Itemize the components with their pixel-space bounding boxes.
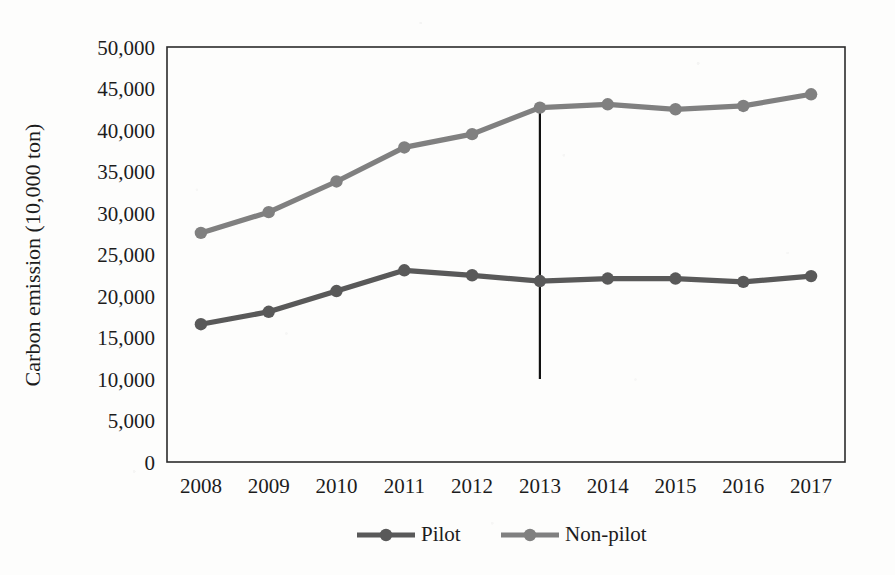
x-axis-tick-label: 2008 bbox=[180, 474, 222, 498]
data-point-marker bbox=[602, 272, 614, 284]
y-axis-tick-label: 30,000 bbox=[97, 202, 155, 226]
chart-legend: PilotNon-pilot bbox=[357, 522, 647, 546]
carbon-emission-line-chart: Carbon emission (10,000 ton) 05,00010,00… bbox=[0, 0, 895, 575]
y-axis-tick-label: 50,000 bbox=[97, 36, 155, 60]
y-axis-tick-label: 40,000 bbox=[97, 119, 155, 143]
data-point-marker bbox=[398, 141, 410, 153]
y-axis-tick-label: 20,000 bbox=[97, 285, 155, 309]
data-point-marker bbox=[263, 306, 275, 318]
data-point-marker bbox=[263, 206, 275, 218]
data-point-marker bbox=[805, 88, 817, 100]
legend-marker-icon bbox=[524, 529, 536, 541]
y-axis-title: Carbon emission (10,000 ton) bbox=[20, 124, 45, 387]
data-point-marker bbox=[466, 128, 478, 140]
data-point-marker bbox=[330, 175, 342, 187]
x-axis-tick-labels: 2008200920102011201220132014201520162017 bbox=[180, 474, 832, 498]
x-axis-tick-label: 2015 bbox=[655, 474, 697, 498]
data-point-marker bbox=[737, 276, 749, 288]
y-axis-tick-label: 0 bbox=[145, 451, 156, 475]
x-axis-tick-label: 2016 bbox=[722, 474, 764, 498]
y-axis-tick-label: 15,000 bbox=[97, 326, 155, 350]
data-point-marker bbox=[398, 264, 410, 276]
data-point-marker bbox=[669, 103, 681, 115]
data-point-marker bbox=[330, 285, 342, 297]
data-point-marker bbox=[195, 227, 207, 239]
x-axis-tick-label: 2012 bbox=[451, 474, 493, 498]
data-point-marker bbox=[737, 100, 749, 112]
series-line bbox=[201, 94, 811, 233]
legend-label: Pilot bbox=[421, 522, 461, 546]
series-line bbox=[201, 270, 811, 324]
legend-item-pilot[interactable]: Pilot bbox=[357, 522, 461, 546]
x-axis-tick-label: 2017 bbox=[790, 474, 832, 498]
x-axis-tick-label: 2014 bbox=[587, 474, 630, 498]
y-axis-tick-label: 35,000 bbox=[97, 160, 155, 184]
data-point-marker bbox=[602, 98, 614, 110]
legend-marker-icon bbox=[380, 529, 392, 541]
y-axis-tick-labels: 05,00010,00015,00020,00025,00030,00035,0… bbox=[97, 36, 155, 475]
figure-container: Carbon emission (10,000 ton) 05,00010,00… bbox=[0, 0, 895, 575]
legend-item-non-pilot[interactable]: Non-pilot bbox=[501, 522, 647, 546]
data-series-layer bbox=[195, 88, 818, 330]
data-point-marker bbox=[669, 272, 681, 284]
x-axis-tick-label: 2013 bbox=[519, 474, 561, 498]
x-axis-tick-label: 2010 bbox=[316, 474, 358, 498]
y-axis-tick-label: 10,000 bbox=[97, 368, 155, 392]
data-point-marker bbox=[534, 275, 546, 287]
data-point-marker bbox=[195, 318, 207, 330]
data-point-marker bbox=[534, 101, 546, 113]
data-point-marker bbox=[466, 269, 478, 281]
y-axis-tick-label: 5,000 bbox=[108, 409, 155, 433]
data-point-marker bbox=[805, 270, 817, 282]
series-non-pilot bbox=[195, 88, 818, 239]
x-axis-tick-label: 2011 bbox=[384, 474, 425, 498]
legend-label: Non-pilot bbox=[565, 522, 647, 546]
series-pilot bbox=[195, 264, 818, 330]
y-axis-tick-label: 45,000 bbox=[97, 77, 155, 101]
y-axis-tick-label: 25,000 bbox=[97, 243, 155, 267]
x-axis-tick-label: 2009 bbox=[248, 474, 290, 498]
